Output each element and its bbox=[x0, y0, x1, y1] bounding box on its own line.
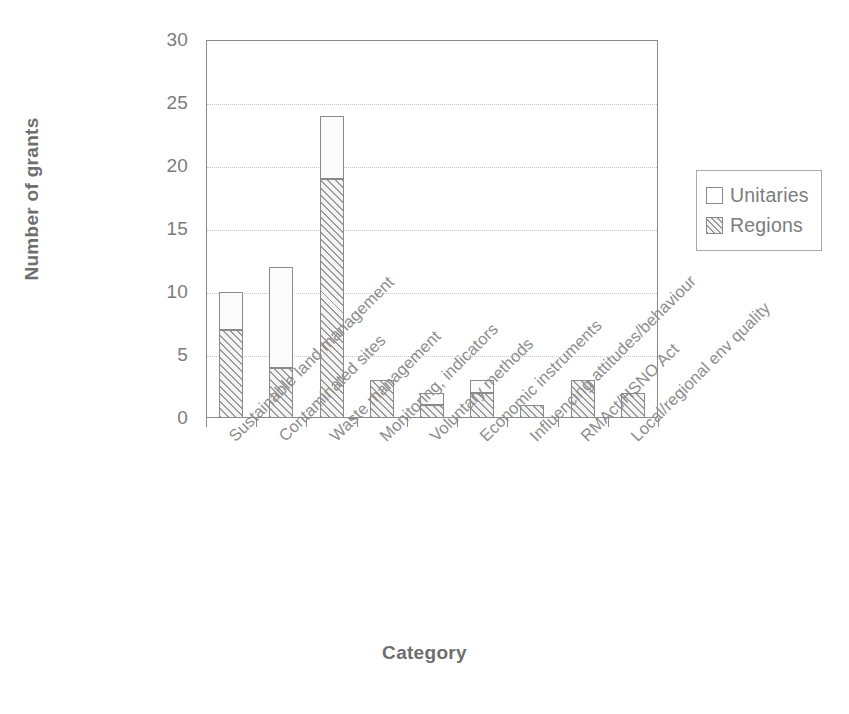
x-axis-tick-mark bbox=[457, 418, 458, 427]
y-axis-tick-label: 25 bbox=[166, 92, 188, 114]
x-axis-tick-mark bbox=[206, 418, 207, 427]
bar-group[interactable] bbox=[520, 40, 544, 418]
y-axis: 051015202530 bbox=[150, 40, 198, 418]
x-axis-tick-mark bbox=[558, 418, 559, 427]
x-axis-tick-mark bbox=[256, 418, 257, 427]
chart-legend: UnitariesRegions bbox=[696, 170, 822, 251]
bar-segment-unitaries[interactable] bbox=[420, 393, 444, 406]
x-axis-tick-mark bbox=[658, 418, 659, 427]
x-axis-tick-mark bbox=[507, 418, 508, 427]
legend-item[interactable]: Regions bbox=[706, 210, 809, 240]
legend-item-label: Regions bbox=[730, 214, 803, 237]
y-axis-title: Number of grants bbox=[21, 99, 43, 299]
bar-group[interactable] bbox=[621, 40, 645, 418]
y-axis-tick-label: 20 bbox=[166, 155, 188, 177]
y-axis-tick-label: 0 bbox=[177, 407, 188, 429]
bar-group[interactable] bbox=[470, 40, 494, 418]
bar-segment-regions[interactable] bbox=[621, 393, 645, 418]
bar-segment-regions[interactable] bbox=[320, 179, 344, 418]
bar-segment-unitaries[interactable] bbox=[320, 116, 344, 179]
empty-square-icon bbox=[706, 187, 723, 204]
x-axis-tick-mark bbox=[608, 418, 609, 427]
bar-segment-unitaries[interactable] bbox=[470, 380, 494, 393]
bar-segment-regions[interactable] bbox=[420, 405, 444, 418]
bar-segment-regions[interactable] bbox=[520, 405, 544, 418]
y-axis-tick-label: 5 bbox=[177, 344, 188, 366]
bar-segment-regions[interactable] bbox=[269, 368, 293, 418]
bar-group[interactable] bbox=[320, 40, 344, 418]
bar-group[interactable] bbox=[219, 40, 243, 418]
bar-group[interactable] bbox=[420, 40, 444, 418]
bar-series-container bbox=[206, 40, 658, 418]
x-axis-tick-mark bbox=[357, 418, 358, 427]
bar-segment-regions[interactable] bbox=[370, 380, 394, 418]
bar-segment-regions[interactable] bbox=[219, 330, 243, 418]
bar-segment-unitaries[interactable] bbox=[269, 267, 293, 368]
bar-segment-unitaries[interactable] bbox=[219, 292, 243, 330]
bar-group[interactable] bbox=[571, 40, 595, 418]
y-axis-tick-label: 15 bbox=[166, 218, 188, 240]
y-axis-tick-label: 10 bbox=[166, 281, 188, 303]
bar-group[interactable] bbox=[269, 40, 293, 418]
bar-group[interactable] bbox=[370, 40, 394, 418]
y-axis-tick-label: 30 bbox=[166, 29, 188, 51]
x-axis-tick-mark bbox=[306, 418, 307, 427]
x-axis-title: Category bbox=[0, 642, 849, 664]
bar-segment-regions[interactable] bbox=[571, 380, 595, 418]
bar-chart-figure: Number of grants 051015202530 Sustainabl… bbox=[0, 0, 849, 714]
legend-item[interactable]: Unitaries bbox=[706, 180, 809, 210]
bar-segment-regions[interactable] bbox=[470, 393, 494, 418]
legend-item-label: Unitaries bbox=[730, 184, 809, 207]
y-axis-tick-mark bbox=[348, 418, 357, 419]
hatched-square-icon bbox=[706, 217, 723, 234]
x-axis-tick-mark bbox=[407, 418, 408, 427]
